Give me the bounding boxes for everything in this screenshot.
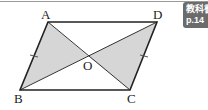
badge-line2: p.14	[186, 15, 208, 26]
shaded-triangle-dco	[88, 22, 157, 90]
label-o: O	[83, 58, 92, 73]
badge-line1: 教科書	[186, 4, 208, 15]
parallelogram-figure: A D B C O	[0, 0, 208, 110]
shaded-triangle-abo	[20, 22, 88, 90]
textbook-page-badge: 教科書 p.14	[183, 2, 208, 28]
label-b: B	[14, 91, 23, 106]
label-a: A	[41, 7, 51, 22]
figure-panel: A D B C O 教科書 p.14	[0, 0, 208, 110]
label-d: D	[153, 7, 162, 22]
label-c: C	[127, 91, 136, 106]
